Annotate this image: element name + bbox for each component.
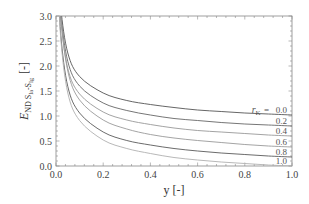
legend-param-label: rK = — [252, 104, 269, 117]
svg-text:END SIa-SIg[-]: END SIa-SIg[-] — [17, 62, 34, 121]
legend-value-label: 0.4 — [276, 126, 288, 136]
y-tick-label: 1.5 — [40, 86, 53, 97]
legend-value-label: 1.0 — [276, 156, 288, 166]
legend-value-label: 0.6 — [276, 137, 288, 147]
legend-value-label: 0.0 — [276, 105, 288, 115]
y-label-sub1: ND S — [24, 95, 33, 113]
x-tick-label: 0.4 — [144, 169, 157, 180]
x-tick-label: 0.0 — [50, 169, 63, 180]
y-tick-label: 3.0 — [40, 11, 53, 22]
plot-frame — [56, 16, 292, 166]
chart: 0.00.51.01.52.02.53.0 0.00.20.40.60.81.0… — [0, 0, 309, 204]
y-label-unit: [-] — [17, 62, 31, 74]
y-label-subsub2: Ig — [28, 78, 34, 83]
x-tick-labels: 0.00.20.40.60.81.0 — [50, 169, 299, 180]
x-axis-label: y [-] — [164, 183, 185, 197]
y-tick-label: 1.0 — [40, 111, 53, 122]
y-axis-label: END SIa-SIg[-] — [17, 62, 34, 121]
series-curves — [58, 0, 292, 166]
y-tick-label: 2.0 — [40, 61, 53, 72]
axis-ticks — [56, 16, 292, 166]
x-tick-label: 0.2 — [97, 169, 110, 180]
y-tick-label: 2.5 — [40, 36, 53, 47]
y-tick-labels: 0.00.51.01.52.02.53.0 — [40, 11, 53, 172]
legend-value-label: 0.2 — [276, 116, 287, 126]
y-tick-label: 0.5 — [40, 136, 53, 147]
x-tick-label: 0.8 — [239, 169, 252, 180]
x-tick-label: 0.6 — [191, 169, 204, 180]
series-line-r1_0 — [58, 0, 292, 166]
x-tick-label: 1.0 — [286, 169, 299, 180]
y-label-sub2: -S — [24, 83, 33, 90]
series-line-r0_2 — [58, 0, 292, 126]
